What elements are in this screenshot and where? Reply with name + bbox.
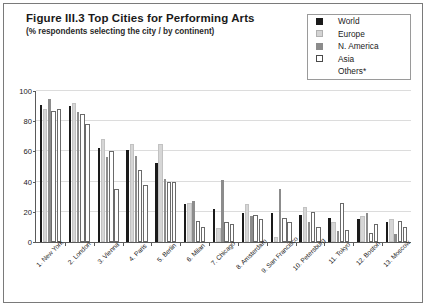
bar[interactable] (271, 213, 273, 242)
bar[interactable] (216, 228, 220, 242)
bar-group: 8. Amsterdam (238, 91, 267, 242)
plot-area: 020406080100 1. New York2. London3. Vien… (35, 91, 411, 243)
bar[interactable] (69, 106, 71, 242)
bar[interactable] (98, 148, 100, 242)
y-axis-tick-label: 100 (19, 87, 32, 96)
bar[interactable] (398, 221, 402, 242)
bar[interactable] (331, 222, 335, 242)
bar[interactable] (187, 203, 191, 242)
bar[interactable] (80, 114, 84, 242)
bar-group: 11. Tokyo (324, 91, 353, 242)
bar[interactable] (192, 201, 194, 242)
x-axis-tick-mark (123, 242, 124, 246)
bar[interactable] (340, 203, 344, 242)
bar-group: 12. Boston (353, 91, 382, 242)
bar-group: 3. Vienna (94, 91, 123, 242)
bar[interactable] (167, 182, 171, 242)
bars (155, 91, 177, 242)
bar-group: 4. Paris (123, 91, 152, 242)
bar[interactable] (394, 234, 396, 242)
bars (241, 91, 263, 242)
bar[interactable] (299, 215, 301, 242)
bar-group: 1. New York (36, 91, 65, 242)
bar[interactable] (72, 103, 76, 242)
bars (68, 91, 90, 242)
bar[interactable] (213, 209, 215, 242)
bars (39, 91, 61, 242)
bar[interactable] (158, 144, 162, 242)
bar[interactable] (360, 216, 364, 242)
bar[interactable] (101, 139, 105, 242)
x-axis-tick-label: 7. Chicago (210, 240, 237, 267)
bar[interactable] (357, 219, 359, 242)
bar[interactable] (389, 219, 393, 242)
bar-group: 5. Berlin (151, 91, 180, 242)
bar[interactable] (366, 213, 368, 242)
x-axis-tick-label: 6. Milan (185, 242, 206, 263)
x-axis-tick-mark (296, 242, 297, 246)
x-axis-tick-label: 3. Vienna (96, 241, 120, 265)
bar[interactable] (328, 218, 330, 242)
x-axis-tick-label: 4. Paris (127, 242, 147, 262)
bar[interactable] (164, 179, 166, 242)
bar[interactable] (308, 222, 310, 242)
bar[interactable] (85, 124, 89, 242)
bar[interactable] (303, 207, 307, 242)
x-axis-tick-label: 13. Moscow (381, 239, 410, 268)
y-axis-tick-label: 60 (24, 147, 32, 156)
x-axis-tick-label: 2. London (67, 240, 92, 265)
bar[interactable] (114, 189, 118, 242)
x-axis-tick-label: 11. Tokyo (327, 241, 351, 265)
figure-frame: Figure III.3 Top Cities for Performing A… (3, 3, 423, 303)
bar[interactable] (48, 99, 50, 242)
x-axis-tick-mark (324, 242, 325, 246)
x-axis-tick-mark (151, 242, 152, 246)
bar[interactable] (172, 182, 176, 242)
bar-group: 9. San Francisco (267, 91, 296, 242)
y-axis-tick-mark (33, 242, 36, 243)
y-axis-tick-label: 0 (28, 238, 32, 247)
bar[interactable] (201, 227, 205, 242)
bar[interactable] (143, 185, 147, 242)
bar[interactable] (369, 233, 373, 242)
bar[interactable] (43, 109, 47, 242)
bars (357, 91, 379, 242)
x-axis-tick-mark (94, 242, 95, 246)
y-axis-tick-label: 80 (24, 117, 32, 126)
bars (126, 91, 148, 242)
bar[interactable] (224, 222, 228, 242)
bar[interactable] (126, 150, 128, 242)
bar[interactable] (386, 222, 388, 242)
bar[interactable] (245, 204, 249, 242)
bar[interactable] (138, 170, 142, 242)
bar[interactable] (130, 144, 134, 242)
bar[interactable] (135, 156, 137, 242)
bar[interactable] (242, 213, 244, 242)
bar[interactable] (77, 112, 79, 242)
bar[interactable] (221, 180, 223, 242)
x-axis-tick-label: 1. New York (35, 239, 64, 268)
bar[interactable] (40, 105, 42, 242)
bar[interactable] (184, 204, 186, 242)
bar[interactable] (311, 212, 315, 242)
bar[interactable] (250, 216, 252, 242)
bar[interactable] (279, 189, 281, 242)
bar[interactable] (109, 151, 113, 242)
bar[interactable] (337, 231, 339, 242)
bars (328, 91, 350, 242)
bars (184, 91, 206, 242)
bar[interactable] (196, 221, 200, 242)
bar-groups: 1. New York2. London3. Vienna4. Paris5. … (36, 91, 411, 242)
bar[interactable] (253, 215, 257, 242)
bar[interactable] (274, 237, 278, 242)
bar[interactable] (155, 163, 157, 242)
x-axis-tick-mark (353, 242, 354, 246)
x-axis-tick-mark (65, 242, 66, 246)
bar[interactable] (106, 157, 108, 242)
bars (270, 91, 292, 242)
x-axis-tick-mark (209, 242, 210, 246)
bar[interactable] (282, 218, 286, 242)
bar[interactable] (51, 111, 55, 242)
bar-group: 10. Petersburg (296, 91, 325, 242)
bar[interactable] (57, 109, 61, 242)
